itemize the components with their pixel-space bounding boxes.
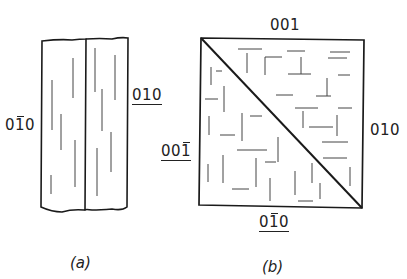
label-digit: 0 xyxy=(132,86,142,104)
label-digit: 0 xyxy=(370,121,380,139)
label-digit: 0 xyxy=(390,121,400,139)
label-digit: 0 xyxy=(161,142,171,160)
diagram-canvas xyxy=(0,0,407,279)
label-digit-overbar: 1 xyxy=(181,144,191,159)
figure-a-right-face-label: 010 xyxy=(132,88,162,105)
label-digit: 1 xyxy=(380,121,390,139)
figure-b-top-face-label: 001 xyxy=(270,18,300,33)
figure-b-bottom-face-label: 010 xyxy=(259,215,289,232)
label-digit: 1 xyxy=(290,16,300,34)
figure-a-striations xyxy=(51,48,115,196)
figure-a-left-face-label: 010 xyxy=(5,118,35,133)
label-digit: 0 xyxy=(279,213,289,231)
label-digit: 0 xyxy=(259,213,269,231)
label-digit-overbar: 1 xyxy=(15,118,25,133)
label-digit: 0 xyxy=(270,16,280,34)
figure-a-twin-boundary xyxy=(85,39,86,210)
figure-b-lower-striations xyxy=(205,67,320,201)
label-digit-overbar: 1 xyxy=(269,215,279,230)
figure-b-right-face-label: 010 xyxy=(370,123,400,138)
label-digit: 0 xyxy=(280,16,290,34)
figure-b-section xyxy=(199,38,364,208)
label-digit: 0 xyxy=(152,86,162,104)
figure-b-diagonal-boundary xyxy=(201,38,362,208)
figure-a-caption: (a) xyxy=(70,256,91,271)
label-digit: 0 xyxy=(5,116,15,134)
figure-b-caption: (b) xyxy=(262,260,283,275)
label-digit: 0 xyxy=(25,116,35,134)
figure-b-upper-striations xyxy=(238,49,352,186)
label-digit: 1 xyxy=(142,86,152,104)
label-digit: 0 xyxy=(171,142,181,160)
figure-b-left-face-label: 001 xyxy=(161,144,191,161)
